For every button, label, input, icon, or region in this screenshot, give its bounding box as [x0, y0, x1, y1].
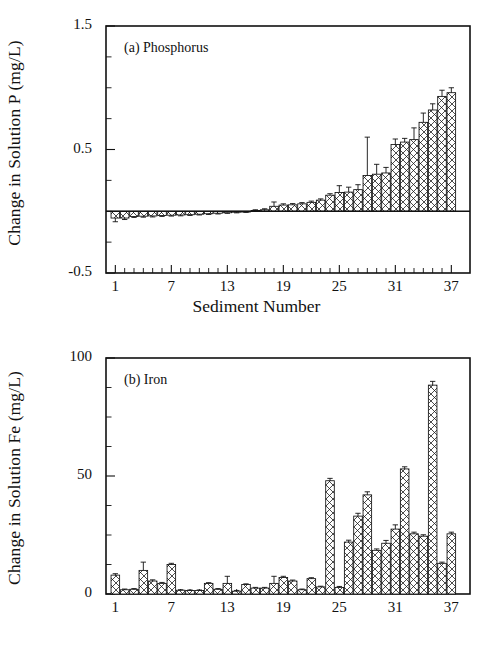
bar — [438, 563, 447, 594]
bar — [344, 542, 353, 594]
bar — [447, 534, 456, 594]
bar — [120, 211, 129, 218]
bar — [279, 577, 288, 594]
bar — [372, 550, 381, 594]
bar — [111, 575, 120, 594]
bar — [363, 175, 372, 211]
bar — [139, 211, 148, 216]
bar — [344, 192, 353, 211]
bar — [158, 583, 167, 594]
bar — [288, 581, 297, 594]
bar — [139, 570, 148, 594]
bar — [391, 145, 400, 212]
bar — [391, 529, 400, 594]
y-axis-label-phosphorus: Change in Solution P (mg/L) — [4, 3, 34, 283]
bar — [288, 205, 297, 211]
bar — [298, 590, 307, 594]
bar — [382, 543, 391, 594]
panel-tag: (a) Phosphorus — [124, 40, 208, 56]
bar-series — [111, 385, 456, 594]
panel-phosphorus: Change in Solution P (mg/L) Sediment Num… — [0, 0, 497, 332]
bar — [204, 583, 213, 594]
plot-area-phosphorus: 1.50.5-0.5171319253137(a) Phosphorus — [106, 26, 470, 273]
y-axis-label-iron: Change in Solution Fe (mg/L) — [4, 338, 34, 618]
bar — [335, 587, 344, 594]
bar — [400, 469, 409, 594]
bar — [419, 122, 428, 211]
bar — [260, 588, 269, 594]
panel-iron: Change in Solution Fe (mg/L) Sediment Nu… — [0, 332, 497, 665]
bar — [428, 385, 437, 594]
bar — [298, 204, 307, 211]
bar — [447, 93, 456, 212]
bar — [438, 96, 447, 211]
bar — [130, 589, 139, 594]
bar — [419, 536, 428, 594]
bar — [335, 192, 344, 211]
bar — [242, 585, 251, 594]
bar — [232, 591, 241, 594]
bar — [382, 173, 391, 211]
bar — [428, 110, 437, 211]
bar — [410, 534, 419, 594]
bar — [120, 590, 129, 594]
bar — [270, 206, 279, 211]
bar — [307, 579, 316, 594]
plot-area-iron: 100500171319253137(b) Iron — [106, 358, 470, 594]
bar — [326, 481, 335, 594]
bar-series — [111, 93, 456, 218]
bar — [354, 190, 363, 212]
bar — [167, 565, 176, 595]
bar — [270, 583, 279, 594]
bar — [354, 516, 363, 594]
bar — [111, 211, 120, 218]
bar — [363, 495, 372, 594]
bar — [130, 211, 139, 216]
bar — [279, 205, 288, 211]
bar — [372, 174, 381, 211]
bar — [326, 195, 335, 211]
bar — [400, 142, 409, 211]
panel-tag: (b) Iron — [124, 372, 167, 388]
bar — [176, 590, 185, 594]
bar — [148, 581, 157, 594]
bar — [223, 583, 232, 594]
bar — [307, 202, 316, 211]
bar — [214, 589, 223, 594]
bar — [186, 590, 195, 594]
bar — [316, 200, 325, 211]
bar — [251, 588, 260, 594]
figure-container: Change in Solution P (mg/L) Sediment Num… — [0, 0, 497, 665]
bar — [195, 590, 204, 594]
bar — [316, 587, 325, 594]
bar — [410, 140, 419, 212]
bar — [148, 211, 157, 216]
